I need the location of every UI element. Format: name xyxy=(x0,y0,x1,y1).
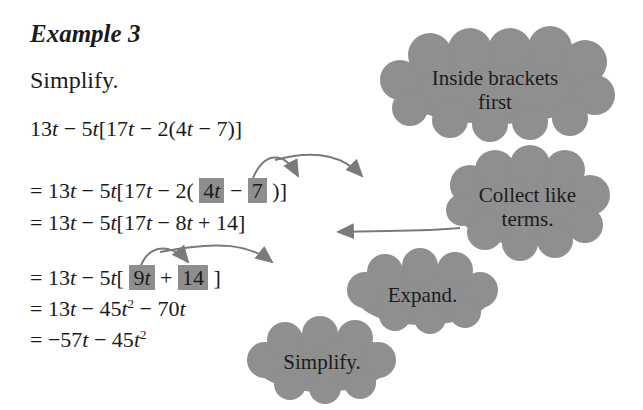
expression-line-3: = 13t − 5t[17t − 8t + 14] xyxy=(30,210,245,236)
instruction-text: Simplify. xyxy=(30,67,118,94)
highlight-box: 14 xyxy=(178,265,208,290)
highlight-box: 9t xyxy=(129,265,154,290)
expression-line-1: 13t − 5t[17t − 2(4t − 7)] xyxy=(30,116,242,142)
example-title: Example 3 xyxy=(30,20,140,48)
highlight-box: 7 xyxy=(248,178,267,203)
expression-line-5: = 13t − 45t2 − 70t xyxy=(30,296,186,322)
callout-expand: Expand. xyxy=(360,283,485,307)
expression-line-6: = −57t − 45t2 xyxy=(30,327,147,353)
highlight-box: 4t xyxy=(199,178,224,203)
expression-line-2: = 13t − 5t[17t − 2( 4t − 7 )] xyxy=(30,178,287,204)
callout-simplify: Simplify. xyxy=(258,350,386,374)
callout-inside-brackets: Inside bracketsfirst xyxy=(400,66,590,114)
callout-collect-like-terms: Collect liketerms. xyxy=(460,183,595,231)
expression-line-4: = 13t − 5t[ 9t + 14 ] xyxy=(30,265,221,291)
